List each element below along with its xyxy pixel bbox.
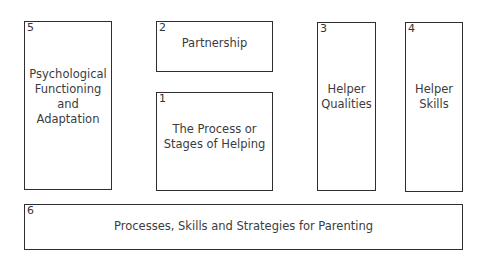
box-helper-qualities: 3 Helper Qualities bbox=[317, 22, 376, 191]
box-helper-skills: 4 Helper Skills bbox=[405, 22, 463, 192]
box-number: 6 bbox=[27, 205, 34, 217]
box-number: 4 bbox=[408, 23, 415, 35]
box-parenting-processes: 6 Processes, Skills and Strategies for P… bbox=[24, 204, 463, 250]
box-label: The Process or Stages of Helping bbox=[157, 122, 272, 152]
box-label: Helper Qualities bbox=[318, 82, 375, 112]
box-number: 5 bbox=[27, 22, 34, 34]
box-label: Helper Skills bbox=[406, 82, 462, 112]
box-label: Processes, Skills and Strategies for Par… bbox=[25, 219, 462, 234]
box-number: 1 bbox=[159, 93, 166, 105]
box-partnership: 2 Partnership bbox=[156, 21, 273, 72]
box-psychological-functioning: 5 Psychological Functioning and Adaptati… bbox=[24, 21, 112, 190]
box-process-stages-of-helping: 1 The Process or Stages of Helping bbox=[156, 92, 273, 191]
box-number: 2 bbox=[159, 22, 166, 34]
box-label: Partnership bbox=[157, 36, 272, 51]
box-label: Psychological Functioning and Adaptation bbox=[25, 67, 111, 127]
box-number: 3 bbox=[320, 23, 327, 35]
